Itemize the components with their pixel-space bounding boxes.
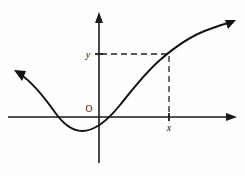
math-figure-container: y x O [0, 0, 245, 176]
curve-end-arrowhead [225, 20, 236, 29]
function-graph-svg: y x O [0, 0, 245, 176]
y-axis-arrowhead [95, 12, 103, 23]
x-axis-label: x [166, 122, 172, 133]
function-curve [20, 23, 228, 131]
y-axis-label: y [85, 49, 91, 60]
x-axis-arrowhead [226, 113, 237, 121]
origin-label: O [86, 104, 93, 114]
curve-start-arrowhead [14, 70, 26, 81]
